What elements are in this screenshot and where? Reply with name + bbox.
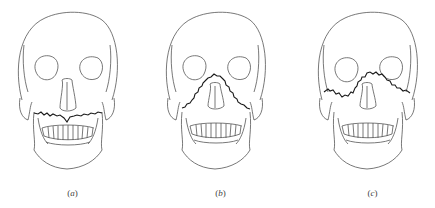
- skull-panel-a: (a): [0, 0, 145, 208]
- caption-c: (c): [300, 188, 435, 198]
- fracture-line-a: [34, 112, 102, 122]
- skull-drawing-b: [148, 0, 293, 208]
- skull-panel-b: (b): [148, 0, 293, 208]
- caption-a: (a): [0, 188, 145, 198]
- skull-panel-c: (c): [300, 0, 435, 208]
- skull-drawing-c: [300, 0, 435, 208]
- skull-drawing-a: [0, 0, 145, 208]
- caption-b: (b): [148, 188, 293, 198]
